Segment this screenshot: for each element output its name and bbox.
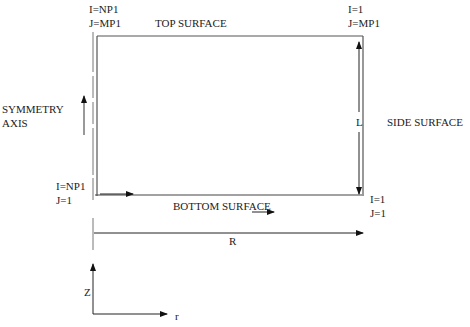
top-right-j-label: J=MP1 [348, 17, 380, 30]
bottom-right-j-label: J=1 [370, 207, 386, 220]
symmetry-axis-label-line2: AXIS [2, 117, 28, 130]
top-left-j-label: J=MP1 [89, 17, 121, 30]
side-surface-label: SIDE SURFACE [387, 116, 463, 129]
bottom-left-j-label: J=1 [56, 194, 72, 207]
top-left-i-label: I=NP1 [89, 3, 118, 16]
z-axis-label: Z [84, 286, 91, 299]
symmetry-axis-label-line1: SYMMETRY [2, 103, 64, 116]
r-axis-label: r [175, 310, 179, 323]
top-right-i-label: I=1 [348, 3, 363, 16]
top-surface-label: TOP SURFACE [155, 17, 227, 30]
bottom-surface-label: BOTTOM SURFACE [173, 200, 271, 213]
domain-rectangle [95, 36, 363, 196]
domain-diagram [0, 0, 470, 327]
length-label: L [356, 116, 363, 129]
radius-label: R [229, 235, 236, 248]
bottom-right-i-label: I=1 [370, 193, 385, 206]
bottom-left-i-label: I=NP1 [56, 180, 85, 193]
